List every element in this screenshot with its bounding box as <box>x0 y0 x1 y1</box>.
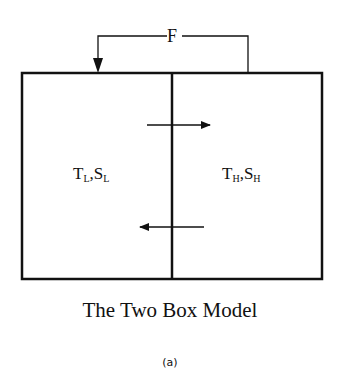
right-box-label: TH,SH <box>222 164 261 184</box>
right-temp-sub: H <box>232 173 239 184</box>
left-box-label: TL,SL <box>73 164 109 184</box>
two-box-diagram <box>0 0 340 388</box>
right-salinity: S <box>244 164 253 183</box>
diagram-title: The Two Box Model <box>0 298 340 323</box>
right-temp: T <box>222 164 232 183</box>
right-salinity-sub: H <box>253 173 260 184</box>
left-temp: T <box>73 164 83 183</box>
flux-arrow-down-icon <box>93 58 103 73</box>
panel-label: (a) <box>0 356 340 369</box>
flux-loop-line-left <box>98 36 167 64</box>
flux-loop-line <box>182 36 248 73</box>
left-salinity-sub: L <box>103 173 109 184</box>
left-salinity: S <box>94 164 103 183</box>
flux-label: F <box>167 26 177 47</box>
